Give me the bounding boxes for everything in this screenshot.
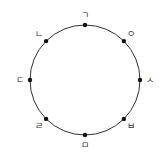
point-label-right: ㅅ <box>146 75 154 85</box>
points-layer: ㄱㅇㅅㅂㅁㄹㄷㄴ <box>16 10 154 150</box>
point-label-lower-right: ㅂ <box>127 121 135 131</box>
point-upper-left <box>44 39 48 43</box>
circle-diagram: ㄱㅇㅅㅂㅁㄹㄷㄴ <box>0 0 160 157</box>
point-upper-right <box>122 39 126 43</box>
point-label-upper-left: ㄴ <box>35 29 43 39</box>
point-right <box>138 78 142 82</box>
point-top <box>83 23 87 27</box>
point-lower-right <box>122 117 126 121</box>
point-label-top: ㄱ <box>81 10 89 20</box>
point-label-bottom: ㅁ <box>81 140 89 150</box>
point-label-upper-right: ㅇ <box>127 29 135 39</box>
point-label-left: ㄷ <box>16 75 24 85</box>
point-left <box>28 78 32 82</box>
point-label-lower-left: ㄹ <box>35 121 43 131</box>
point-lower-left <box>44 117 48 121</box>
point-bottom <box>83 133 87 137</box>
